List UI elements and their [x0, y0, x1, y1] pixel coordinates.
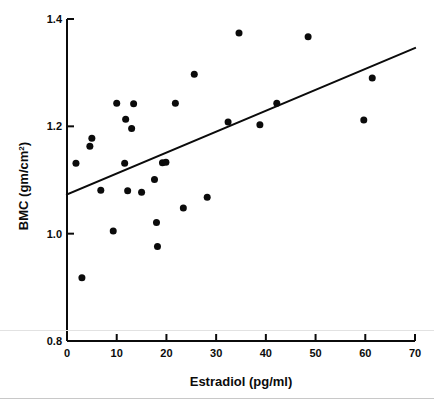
y-axis-tick-labels: 0.81.01.21.4 — [47, 13, 63, 347]
data-point — [97, 187, 104, 194]
data-point — [180, 204, 187, 211]
data-point — [78, 274, 85, 281]
data-point — [172, 100, 179, 107]
data-point — [256, 121, 263, 128]
x-axis-tick-labels: 010203040506070 — [64, 347, 421, 359]
data-point — [360, 116, 367, 123]
axes-group — [67, 19, 415, 341]
x-tick-label-70: 70 — [409, 347, 421, 359]
data-point — [151, 176, 158, 183]
x-tick-label-10: 10 — [111, 347, 123, 359]
data-point — [225, 119, 232, 126]
y-tick-label-1.2: 1.2 — [47, 120, 62, 132]
data-point — [305, 33, 312, 40]
data-point — [124, 187, 131, 194]
page-faint-rule — [0, 330, 434, 331]
x-tick-label-60: 60 — [359, 347, 371, 359]
data-point — [369, 75, 376, 82]
data-point — [162, 159, 169, 166]
data-point — [273, 100, 280, 107]
data-point — [204, 194, 211, 201]
data-point — [138, 189, 145, 196]
x-tick-label-20: 20 — [160, 347, 172, 359]
data-point — [121, 160, 128, 167]
y-axis-title-tail: ) — [16, 142, 31, 146]
y-tick-label-1.4: 1.4 — [47, 13, 63, 25]
data-point — [154, 243, 161, 250]
figure-container: 010203040506070 0.81.01.21.4 Estradiol (… — [0, 0, 434, 401]
x-tick-label-30: 30 — [210, 347, 222, 359]
x-tick-label-40: 40 — [260, 347, 272, 359]
x-tick-label-50: 50 — [309, 347, 321, 359]
data-point — [72, 160, 79, 167]
data-point — [122, 116, 129, 123]
data-point — [86, 143, 93, 150]
data-point — [130, 100, 137, 107]
svg-text:BMC (gm/cm2): BMC (gm/cm2) — [16, 142, 31, 230]
y-tick-label-1.0: 1.0 — [47, 228, 62, 240]
data-points-group — [72, 29, 375, 281]
data-point — [153, 219, 160, 226]
page-bottom-rule — [0, 398, 434, 399]
data-point — [236, 29, 243, 36]
x-axis-title: Estradiol (pg/ml) — [190, 374, 293, 389]
x-axis-ticks — [67, 334, 415, 341]
y-axis-title: BMC (gm/cm2) — [16, 142, 31, 230]
data-point — [191, 71, 198, 78]
data-point — [113, 100, 120, 107]
y-tick-label-0.8: 0.8 — [47, 335, 62, 347]
y-axis-title-main: BMC (gm/cm — [16, 151, 31, 230]
data-point — [88, 135, 95, 142]
scatter-plot: 010203040506070 0.81.01.21.4 Estradiol (… — [0, 0, 434, 401]
data-point — [110, 227, 117, 234]
y-axis-ticks — [67, 19, 74, 341]
x-tick-label-0: 0 — [64, 347, 70, 359]
data-point — [128, 125, 135, 132]
